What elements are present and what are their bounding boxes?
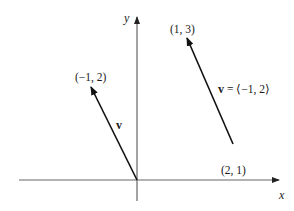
translated-tip-coordinate: (1, 3) xyxy=(170,23,195,36)
y-axis-label: y xyxy=(123,11,130,25)
translated-vector-equation-text: v xyxy=(218,82,224,96)
v-vector-name: v xyxy=(116,118,122,132)
translated-tail-coordinate: (2, 1) xyxy=(221,164,246,177)
x-axis-label: x xyxy=(278,188,285,202)
translated-vector-equation-rest: = ⟨−1, 2⟩ xyxy=(227,83,270,96)
v-tip-coordinate: (−1, 2) xyxy=(75,71,107,84)
translated-vector-equation: v = ⟨−1, 2⟩ xyxy=(218,82,270,96)
vector-diagram: y x (−1, 2) v (1, 3) v = ⟨−1, 2⟩ (2, 1) xyxy=(0,0,294,211)
vector-v xyxy=(91,87,137,180)
